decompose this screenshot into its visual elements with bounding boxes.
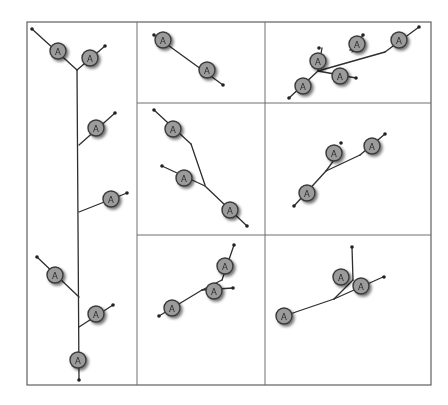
node-a: A	[82, 50, 98, 66]
node-a: A	[353, 278, 369, 294]
node-a: A	[164, 300, 180, 316]
node-label: A	[75, 356, 81, 366]
node-label: A	[87, 54, 93, 64]
node-label: A	[396, 36, 402, 46]
panels: AAAAAAAAAAAAAAAAAAAAAAAAAA	[30, 25, 421, 382]
node-label: A	[338, 273, 344, 283]
node-label: A	[181, 174, 187, 184]
branch-tip-dot	[77, 378, 81, 382]
node-a: A	[155, 32, 171, 48]
panel-top-right: AAAAA	[287, 25, 421, 100]
node-a: A	[88, 306, 104, 322]
branch-tip-dot	[354, 76, 358, 80]
node-label: A	[304, 189, 310, 199]
branch-tip-dot	[245, 224, 249, 228]
node-a: A	[206, 283, 222, 299]
node-label: A	[281, 312, 287, 322]
node-a: A	[276, 308, 292, 324]
tree-edge	[318, 52, 385, 71]
node-a: A	[332, 68, 348, 84]
panel-bottom-right: AAA	[276, 245, 386, 324]
panel-middle-right: AAA	[292, 132, 387, 208]
node-a: A	[326, 145, 342, 161]
branch-tip-dot	[160, 164, 164, 168]
node-label: A	[169, 304, 175, 314]
node-label: A	[160, 36, 166, 46]
node-a: A	[50, 43, 66, 59]
node-a: A	[199, 62, 215, 78]
node-label: A	[358, 282, 364, 292]
tree-diagram-canvas: AAAAAAAAAAAAAAAAAAAAAAAAAA	[0, 0, 448, 405]
node-a: A	[349, 36, 365, 52]
panel-top-middle: AA	[152, 32, 225, 87]
branch-tip-dot	[231, 286, 235, 290]
node-label: A	[354, 40, 360, 50]
node-label: A	[108, 195, 114, 205]
node-label: A	[300, 82, 306, 92]
node-a: A	[364, 138, 380, 154]
node-a: A	[391, 32, 407, 48]
node-label: A	[337, 72, 343, 82]
branch-tip-dot	[361, 33, 365, 37]
node-a: A	[333, 269, 349, 285]
panel-bottom-middle: AAA	[157, 243, 236, 318]
node-label: A	[315, 57, 321, 67]
branch-tip-dot	[339, 141, 343, 145]
node-a: A	[217, 258, 233, 274]
node-a: A	[222, 202, 238, 218]
node-label: A	[204, 66, 210, 76]
branch-tip-dot	[382, 275, 386, 279]
branch-tip-dot	[30, 27, 34, 31]
node-label: A	[55, 47, 61, 57]
branch-tip-dot	[317, 46, 321, 50]
node-label: A	[222, 262, 228, 272]
branch-tip-dot	[221, 83, 225, 87]
branch-tip-dot	[103, 44, 107, 48]
node-label: A	[369, 142, 375, 152]
node-label: A	[93, 124, 99, 134]
node-label: A	[52, 271, 58, 281]
node-a: A	[165, 121, 181, 137]
node-label: A	[170, 125, 176, 135]
branch-tip-dot	[111, 303, 115, 307]
node-label: A	[227, 206, 233, 216]
branch-tip-dot	[125, 191, 129, 195]
branch-tip-dot	[287, 96, 291, 100]
branch-tip-dot	[157, 314, 161, 318]
node-a: A	[70, 352, 86, 368]
tree-edge	[352, 247, 353, 280]
branch-tip-dot	[232, 243, 236, 247]
branch-tip-dot	[292, 204, 296, 208]
branch-tip-dot	[35, 255, 39, 259]
node-label: A	[331, 149, 337, 159]
panel-middle-middle: AAA	[152, 108, 249, 228]
node-label: A	[93, 310, 99, 320]
tree-edge	[191, 144, 205, 185]
panel-left-tall: AAAAAAA	[30, 27, 129, 382]
tree-edge	[77, 70, 79, 380]
node-a: A	[176, 170, 192, 186]
branch-tip-dot	[383, 132, 387, 136]
node-label: A	[211, 287, 217, 297]
branch-tip-dot	[417, 25, 421, 29]
node-a: A	[295, 78, 311, 94]
node-a: A	[47, 267, 63, 283]
branch-tip-dot	[113, 111, 117, 115]
node-a: A	[103, 191, 119, 207]
node-a: A	[88, 120, 104, 136]
node-a: A	[310, 53, 326, 69]
node-a: A	[299, 185, 315, 201]
branch-tip-dot	[350, 245, 354, 249]
branch-tip-dot	[152, 108, 156, 112]
